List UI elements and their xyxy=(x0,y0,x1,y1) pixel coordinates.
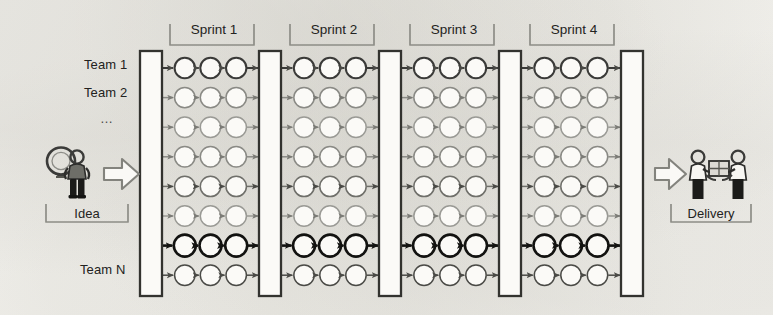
work-item-node xyxy=(200,206,220,226)
synchronization-bar xyxy=(621,51,643,296)
work-item-node xyxy=(561,87,581,107)
row-label-ellipsis: … xyxy=(100,111,115,126)
sprint-cell xyxy=(163,265,258,285)
work-item-node xyxy=(226,58,246,78)
work-item-node xyxy=(561,147,581,167)
work-item-node xyxy=(534,58,554,78)
lightbulb-person-icon xyxy=(47,148,89,199)
work-item-node xyxy=(414,206,434,226)
work-item-node xyxy=(226,176,246,196)
work-item-node xyxy=(440,265,460,285)
work-item-node xyxy=(414,265,434,285)
work-item-node xyxy=(346,147,366,167)
sprint-cell xyxy=(402,147,498,167)
work-item-node xyxy=(320,87,340,107)
work-item-node xyxy=(226,147,246,167)
work-item-node xyxy=(466,265,486,285)
work-item-node xyxy=(200,176,220,196)
work-item-node xyxy=(561,206,581,226)
sprint-cell xyxy=(282,265,378,285)
right-arrow-icon xyxy=(104,159,139,189)
row-label-team-1: Team 1 xyxy=(84,57,127,72)
handoff-people-icon xyxy=(690,151,747,199)
work-item-node xyxy=(175,147,195,167)
work-item-node xyxy=(345,235,367,257)
work-item-node xyxy=(534,235,556,257)
sprint-cell xyxy=(522,206,620,226)
work-item-node xyxy=(534,206,554,226)
work-item-node xyxy=(465,235,487,257)
work-item-node xyxy=(226,206,246,226)
sprint-cell xyxy=(402,87,498,107)
work-item-node xyxy=(226,87,246,107)
delivery-caption: Delivery xyxy=(671,206,751,221)
sprint-cell xyxy=(163,176,258,196)
work-item-node xyxy=(346,176,366,196)
work-item-node xyxy=(587,117,607,137)
sprint-cell xyxy=(522,58,620,78)
work-item-node xyxy=(414,58,434,78)
work-item-node xyxy=(534,87,554,107)
work-item-node xyxy=(175,87,195,107)
sprint-cell xyxy=(282,235,378,257)
work-item-node xyxy=(320,176,340,196)
work-item-node xyxy=(587,235,609,257)
work-item-node xyxy=(200,265,220,285)
work-item-node xyxy=(320,147,340,167)
sprint-cell xyxy=(402,117,498,137)
sprint-cell xyxy=(282,117,378,137)
sprint-cell xyxy=(282,147,378,167)
work-item-node xyxy=(414,176,434,196)
work-item-node xyxy=(587,58,607,78)
work-item-node xyxy=(174,235,196,257)
work-item-node xyxy=(200,58,220,78)
work-item-node xyxy=(587,87,607,107)
work-item-node xyxy=(440,58,460,78)
sprint-label-2: Sprint 2 xyxy=(292,22,376,37)
right-arrow-icon xyxy=(655,159,686,189)
work-item-node xyxy=(320,58,340,78)
sprint-cell xyxy=(163,117,258,137)
sprint-cell xyxy=(282,87,378,107)
sprint-cell xyxy=(163,235,258,257)
work-item-node xyxy=(587,265,607,285)
work-item-node xyxy=(319,235,341,257)
sprint-cell xyxy=(522,147,620,167)
work-item-node xyxy=(440,176,460,196)
sprint-cell xyxy=(402,265,498,285)
work-item-node xyxy=(587,176,607,196)
work-item-node xyxy=(175,117,195,137)
work-item-node xyxy=(175,206,195,226)
work-item-node xyxy=(294,117,314,137)
synchronization-bar xyxy=(259,51,281,296)
work-item-node xyxy=(440,117,460,137)
work-item-node xyxy=(413,235,435,257)
work-item-node xyxy=(175,176,195,196)
work-item-node xyxy=(346,58,366,78)
sprint-cell xyxy=(163,87,258,107)
work-item-node xyxy=(561,265,581,285)
work-item-node xyxy=(294,176,314,196)
work-item-node xyxy=(439,235,461,257)
work-item-node xyxy=(200,87,220,107)
sprint-cell xyxy=(282,58,378,78)
work-item-node xyxy=(414,87,434,107)
sprint-cell xyxy=(522,176,620,196)
work-item-node xyxy=(440,87,460,107)
work-item-node xyxy=(346,206,366,226)
work-item-node xyxy=(200,235,222,257)
work-item-node xyxy=(466,176,486,196)
work-item-node xyxy=(294,265,314,285)
work-item-node xyxy=(225,235,247,257)
work-item-node xyxy=(466,58,486,78)
work-item-node xyxy=(466,206,486,226)
work-item-node xyxy=(226,117,246,137)
row-label-team-2: Team 2 xyxy=(84,85,127,100)
idea-caption: Idea xyxy=(46,206,128,221)
work-item-node xyxy=(561,176,581,196)
work-item-node xyxy=(200,147,220,167)
sprint-cell xyxy=(282,206,378,226)
work-item-node xyxy=(440,206,460,226)
work-item-node xyxy=(346,117,366,137)
work-item-node xyxy=(414,147,434,167)
